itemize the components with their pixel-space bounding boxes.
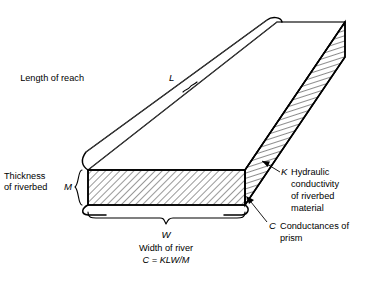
c-symbol-label: C [269,220,276,231]
prism-body [88,22,345,205]
prism-front-face [88,170,245,205]
k-description-line2: conductivity [291,179,339,189]
conductance-formula-label: C = KLW/M [143,255,190,265]
k-description-line4: material [291,203,324,213]
c-description-line1: Conductances of [280,221,349,231]
c-description-line2: prism [280,233,303,243]
length-symbol-label: L [169,72,174,83]
prism-figure-svg: Length of reach L Thickness of riverbed … [0,0,365,286]
width-brace-path [88,212,245,224]
thickness-brace-path [75,170,82,205]
c-leader [246,196,267,222]
thickness-label-line1: Thickness [4,171,46,181]
thickness-symbol-label: M [64,181,72,192]
thickness-brace [75,170,82,205]
thickness-label-line2: of riverbed [4,182,47,192]
k-symbol-label: K [281,166,288,177]
prism-rounded-bottom-left [83,205,106,215]
width-brace [88,212,245,224]
k-description-line1: Hydraulic [291,167,330,177]
width-of-river-label: Width of river [139,243,193,253]
k-description-line3: of riverbed [291,191,334,201]
length-of-reach-label: Length of reach [20,73,84,83]
riverbed-prism-diagram: Length of reach L Thickness of riverbed … [0,0,365,286]
width-symbol-label: W [161,229,171,240]
